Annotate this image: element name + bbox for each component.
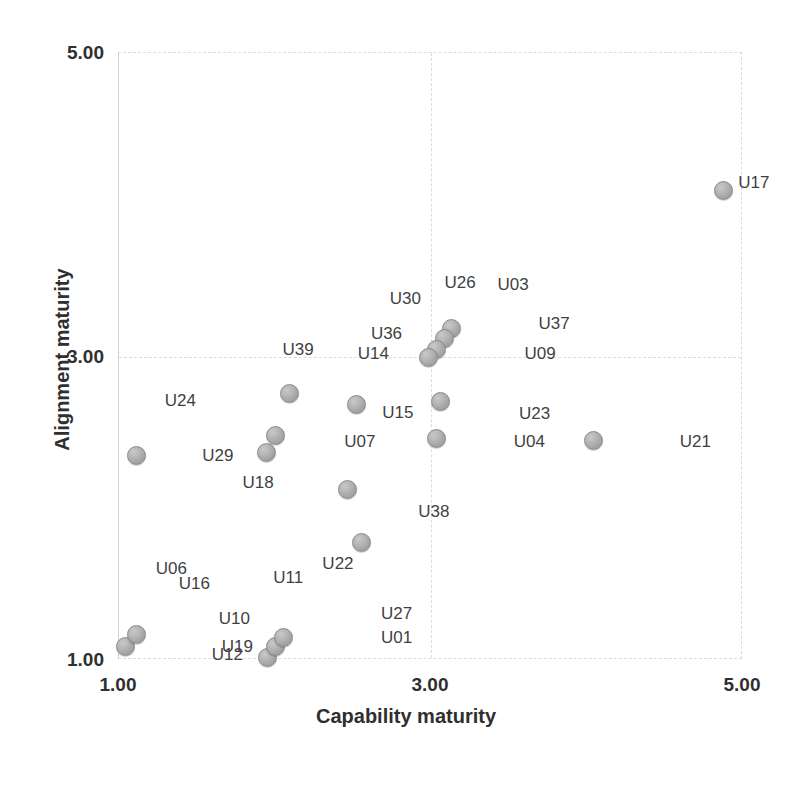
data-point-label: U16 xyxy=(179,575,210,592)
x-axis-tick-label: 5.00 xyxy=(692,675,792,694)
scatter-chart: Alignment maturity Capability maturity 1… xyxy=(0,0,812,785)
data-point-label: U21 xyxy=(680,433,711,450)
data-point-label: U26 xyxy=(444,274,475,291)
data-point-label: U30 xyxy=(390,290,421,307)
y-axis-tick-label: 1.00 xyxy=(40,650,104,669)
data-point-label: U23 xyxy=(519,405,550,422)
data-point-label: U38 xyxy=(418,503,449,520)
data-point-label: U12 xyxy=(212,646,243,663)
data-point-label: U14 xyxy=(358,345,389,362)
data-point-marker[interactable] xyxy=(352,533,371,552)
data-point-marker[interactable] xyxy=(274,628,293,647)
data-point-marker[interactable] xyxy=(347,395,366,414)
data-point-label: U36 xyxy=(371,325,402,342)
y-axis-tick-label: 3.00 xyxy=(40,347,104,366)
data-point-marker[interactable] xyxy=(431,392,450,411)
x-axis-tick-label: 1.00 xyxy=(68,675,168,694)
data-point-label: U22 xyxy=(322,555,353,572)
x-axis-tick-label: 3.00 xyxy=(380,675,480,694)
data-point-label: U24 xyxy=(165,392,196,409)
data-point-label: U03 xyxy=(497,276,528,293)
data-point-marker[interactable] xyxy=(257,443,276,462)
data-point-marker[interactable] xyxy=(338,480,357,499)
x-axis-title: Capability maturity xyxy=(0,705,812,728)
data-point-marker[interactable] xyxy=(280,384,299,403)
data-point-label: U07 xyxy=(344,433,375,450)
data-point-label: U39 xyxy=(283,341,314,358)
data-point-marker[interactable] xyxy=(419,348,438,367)
data-point-label: U15 xyxy=(382,404,413,421)
data-point-label: U17 xyxy=(738,174,769,191)
data-point-label: U09 xyxy=(524,345,555,362)
data-point-label: U01 xyxy=(381,629,412,646)
data-point-label: U37 xyxy=(538,315,569,332)
data-point-label: U11 xyxy=(273,569,303,586)
data-point-label: U10 xyxy=(219,610,250,627)
data-point-label: U18 xyxy=(243,474,274,491)
data-point-label: U29 xyxy=(202,447,233,464)
data-point-label: U27 xyxy=(381,605,412,622)
y-axis-tick-label: 5.00 xyxy=(40,43,104,62)
data-point-label: U04 xyxy=(514,433,545,450)
data-point-marker[interactable] xyxy=(714,181,733,200)
